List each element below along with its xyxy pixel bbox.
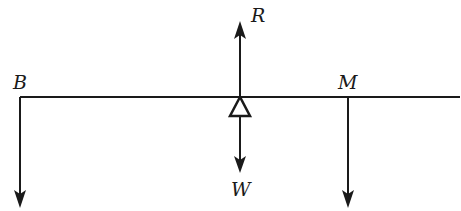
force-arrow-m	[342, 97, 354, 208]
force-arrow-b	[14, 97, 26, 208]
label-m: M	[337, 71, 358, 93]
label-r: R	[250, 4, 265, 26]
free-body-diagram: B R W M	[0, 0, 461, 211]
label-w: W	[231, 178, 252, 200]
label-b: B	[12, 71, 27, 93]
force-arrow-r	[234, 21, 246, 97]
pivot-triangle-icon	[230, 97, 250, 116]
force-arrow-w	[234, 116, 246, 173]
